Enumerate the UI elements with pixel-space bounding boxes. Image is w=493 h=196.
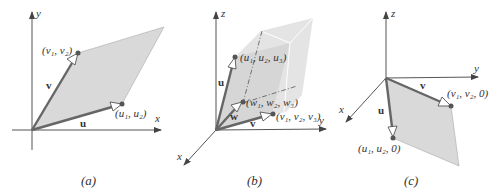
x-axis-b: [184, 130, 216, 165]
point-v-label-c: (v₁, v₂, 0): [447, 88, 488, 99]
y-axis-label-c: y: [474, 63, 479, 74]
x-axis-label-a: x: [155, 113, 160, 124]
point-u-label-b: (u₁, u₂, u₃): [240, 52, 286, 63]
caption-b: (b): [247, 174, 262, 187]
y-axis-b: [216, 129, 326, 130]
point-v-a: [76, 51, 81, 56]
point-u-label-a: (u₁, u₂): [115, 108, 146, 119]
panel-a: [12, 12, 164, 150]
point-u-c: [391, 136, 396, 141]
point-u-a: [120, 102, 125, 107]
z-axis-label-c: z: [391, 8, 395, 19]
point-u-label-c: (u₁, u₂, 0): [358, 143, 400, 154]
point-w-b: [241, 100, 246, 105]
vector-u-label-c: u: [378, 105, 384, 116]
point-u-b: [233, 55, 238, 60]
point-v-label-a: (v₁, v₂): [42, 45, 72, 56]
caption-c: (c): [404, 174, 418, 187]
vector-v-label-b: v: [250, 118, 256, 129]
vector-u-label-b: u: [218, 77, 224, 88]
vector-v-b-arrowhead: [260, 112, 272, 121]
point-w-label-b: (w₁, w₂, w₃): [246, 97, 298, 108]
x-axis-label-c: x: [339, 104, 344, 115]
z-axis-label-b: z: [221, 8, 225, 19]
vector-v-label-a: v: [46, 80, 52, 91]
caption-a: (a): [81, 174, 96, 187]
y-axis-c: [386, 77, 478, 78]
panel-b: [184, 12, 326, 165]
point-v-c: [449, 104, 454, 109]
vector-v-label-c: v: [420, 80, 426, 91]
x-axis-label-b: x: [177, 151, 182, 162]
vector-w-label-b: w: [230, 111, 238, 122]
point-v-b: [271, 112, 276, 117]
vector-u-label-a: u: [80, 118, 86, 129]
point-v-label-b: (v₁, v₂, v₃): [276, 111, 320, 122]
y-axis-label-a: y: [36, 8, 41, 19]
